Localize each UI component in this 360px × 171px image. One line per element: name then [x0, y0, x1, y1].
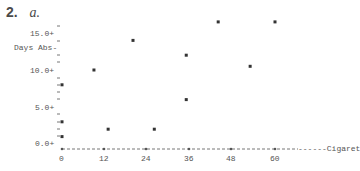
- y-axis-minor-ticks: [57, 26, 60, 136]
- data-point: [217, 20, 220, 23]
- data-point: [153, 128, 156, 131]
- data-point: [92, 69, 95, 72]
- data-point: [249, 65, 252, 68]
- data-point: [274, 20, 277, 23]
- data-point: [61, 120, 64, 123]
- data-point: [185, 54, 188, 57]
- data-points: [61, 20, 277, 138]
- data-point: [185, 98, 188, 101]
- data-point: [61, 83, 64, 86]
- data-point: [61, 135, 64, 138]
- data-point: [107, 128, 110, 131]
- data-point: [132, 39, 135, 42]
